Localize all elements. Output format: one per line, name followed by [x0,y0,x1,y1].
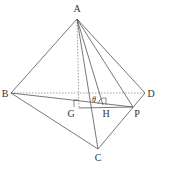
point-label-g: G [67,108,74,119]
point-label-h: H [102,108,109,119]
hidden-edge-ag [77,19,79,108]
point-label-p: P [134,108,140,119]
edge-cd [98,93,145,149]
point-label-d: D [147,88,154,99]
edge-ah [77,19,103,105]
edge-ab [11,19,77,93]
angle-label-theta: θ [92,95,96,104]
point-label-b: B [2,88,9,99]
point-label-a: A [73,3,81,14]
tetrahedron-diagram: θ ABCDGHP [0,0,171,171]
point-label-c: C [95,152,102,163]
edge-ap [77,19,133,107]
